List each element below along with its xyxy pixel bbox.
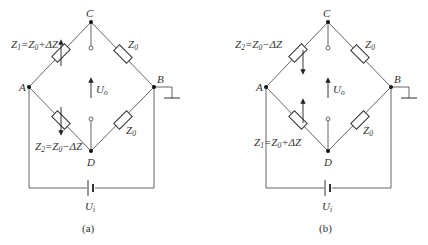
label-uo-a: Uo (96, 83, 108, 97)
node-a (264, 85, 268, 89)
node-c (326, 20, 330, 24)
resistor-z2-b (289, 44, 307, 62)
label-node-b: B (394, 73, 401, 85)
output-terminal-top (326, 46, 330, 50)
caption-a: (a) (82, 222, 95, 235)
node-c (89, 20, 93, 24)
label-node-c: C (323, 7, 331, 19)
label-z0-bottom-b: Z0 (363, 124, 373, 138)
label-uo-b: Uo (333, 83, 345, 97)
output-terminal-bottom (326, 117, 330, 121)
caption-b: (b) (319, 222, 332, 235)
label-z0-top-b: Z0 (365, 38, 375, 52)
node-a (27, 85, 31, 89)
label-node-c: C (86, 7, 94, 19)
label-z2-b: Z2=Z0−ΔZ (235, 38, 283, 52)
ground-wire (391, 87, 409, 98)
label-z1-a: Z1=Z0+ΔZ (11, 38, 59, 52)
output-terminal-top (89, 46, 93, 50)
label-ui-a: Ui (85, 200, 95, 214)
node-d (326, 149, 330, 153)
output-terminal-bottom (89, 117, 93, 121)
node-b (152, 85, 156, 89)
label-node-d: D (323, 156, 332, 168)
label-z1-b: Z1=Z0+ΔZ (254, 136, 302, 150)
label-z0-bottom-a: Z0 (126, 124, 136, 138)
bridge-circuit-b: C A B D Z2=Z0−ΔZ Z0 Z1=Z0+ΔZ Z0 Uo Ui (b… (235, 7, 417, 235)
label-z2-a: Z2=Z0−ΔZ (35, 140, 83, 154)
bridge-circuit-a: C A B D Z1=Z0+ΔZ Z0 Z2=Z0−ΔZ Z0 Uo Ui (a… (11, 7, 180, 235)
node-d (89, 149, 93, 153)
label-node-b: B (157, 73, 164, 85)
label-node-a: A (255, 81, 263, 93)
resistor-z1-b (289, 111, 307, 129)
label-node-d: D (86, 156, 95, 168)
label-ui-b: Ui (322, 200, 332, 214)
label-node-a: A (18, 81, 26, 93)
label-z0-top-a: Z0 (128, 38, 138, 52)
ground-wire (154, 87, 172, 98)
node-b (389, 85, 393, 89)
